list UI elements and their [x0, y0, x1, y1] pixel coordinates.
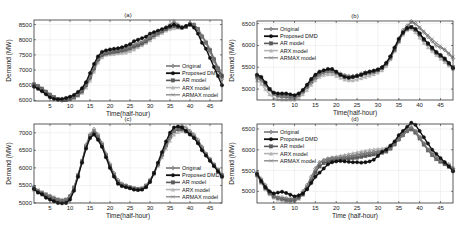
panel-title: (c) — [125, 116, 132, 122]
y-tick-label: 5500 — [242, 64, 256, 70]
x-tick-label: 45 — [207, 103, 214, 109]
x-axis-label: Time (half-hour) — [332, 212, 378, 220]
legend-entry: AR model — [280, 40, 304, 46]
x-tick-label: 10 — [67, 205, 74, 211]
y-tick-label: 5500 — [242, 168, 256, 174]
x-tick-label: 30 — [375, 205, 382, 211]
y-tick-label: 6500 — [242, 126, 256, 132]
x-tick-label: 35 — [395, 205, 402, 211]
x-tick-label: 40 — [416, 205, 423, 211]
x-tick-label: 40 — [416, 102, 423, 108]
legend-entry: Original — [182, 165, 201, 171]
x-tick-label: 10 — [67, 103, 74, 109]
x-tick-label: 25 — [127, 103, 134, 109]
legend-entry: ARMAX model — [182, 194, 218, 200]
x-tick-label: 30 — [375, 102, 382, 108]
x-tick-label: 25 — [127, 205, 134, 211]
legend-entry: ARMAX model — [182, 92, 218, 98]
x-tick-label: 5 — [48, 205, 52, 211]
legend-entry: AR model — [182, 179, 206, 185]
panel-title: (d) — [351, 116, 358, 122]
legend-entry: ARX model — [280, 48, 308, 54]
y-tick-label: 6500 — [242, 21, 256, 27]
y-tick-label: 8500 — [19, 22, 33, 28]
legend: OriginalProposed DMDAR modelARX modelARM… — [262, 24, 318, 62]
legend-entry: ARX model — [182, 187, 210, 193]
legend: OriginalProposed DMDAR modelARX modelARM… — [164, 163, 220, 201]
x-tick-label: 15 — [312, 205, 319, 211]
legend: OriginalProposed DMDAR modelARX modelARM… — [164, 61, 220, 99]
legend-entry: Original — [280, 26, 299, 32]
chart-panel-b: 510152025303540455000550060006500(b)Time… — [228, 13, 455, 117]
x-tick-label: 45 — [437, 102, 444, 108]
legend-entry: ARX model — [280, 151, 308, 157]
y-tick-label: 6000 — [19, 97, 33, 103]
x-tick-label: 15 — [87, 205, 94, 211]
x-tick-label: 40 — [187, 103, 194, 109]
x-tick-label: 30 — [147, 103, 154, 109]
legend-entry: AR model — [280, 143, 304, 149]
x-tick-label: 35 — [395, 102, 402, 108]
y-tick-label: 5000 — [242, 86, 256, 92]
x-tick-label: 20 — [333, 205, 340, 211]
x-tick-label: 35 — [167, 205, 174, 211]
x-tick-label: 30 — [147, 205, 154, 211]
figure-canvas: 5101520253035404560006500700075008000850… — [0, 0, 461, 234]
legend: OriginalProposed DMDAR modelARX modelARM… — [262, 127, 318, 165]
x-tick-label: 45 — [437, 205, 444, 211]
legend-entry: Original — [280, 129, 299, 135]
y-tick-label: 6000 — [242, 42, 256, 48]
y-axis-label: Demand (MW) — [5, 142, 13, 184]
chart-panel-a: 5101520253035404560006500700075008000850… — [5, 12, 224, 118]
y-tick-label: 7500 — [19, 52, 33, 58]
y-axis-label: Demand (MW) — [228, 142, 236, 184]
x-tick-label: 10 — [291, 102, 298, 108]
legend-entry: ARMAX model — [280, 158, 316, 164]
legend-entry: Proposed DMD — [280, 33, 318, 39]
x-tick-label: 20 — [333, 102, 340, 108]
panel-title: (b) — [351, 13, 358, 19]
x-tick-label: 5 — [48, 103, 52, 109]
x-tick-label: 20 — [107, 103, 114, 109]
legend-entry: Proposed DMD — [182, 172, 220, 178]
x-tick-label: 25 — [354, 205, 361, 211]
y-tick-label: 6500 — [19, 82, 33, 88]
y-tick-label: 5000 — [242, 188, 256, 194]
x-tick-label: 15 — [312, 102, 319, 108]
y-tick-label: 6000 — [19, 165, 33, 171]
panel-title: (a) — [124, 12, 131, 18]
x-tick-label: 25 — [354, 102, 361, 108]
x-tick-label: 10 — [291, 205, 298, 211]
y-axis-label: Demand (MW) — [228, 39, 236, 81]
legend-entry: Proposed DMD — [280, 136, 318, 142]
x-tick-label: 15 — [87, 103, 94, 109]
legend-entry: AR model — [182, 77, 206, 83]
y-tick-label: 6000 — [242, 147, 256, 153]
figure: 5101520253035404560006500700075008000850… — [0, 0, 461, 234]
y-tick-label: 5000 — [19, 200, 33, 206]
y-tick-label: 7000 — [19, 67, 33, 73]
x-tick-label: 5 — [272, 205, 276, 211]
legend-entry: Original — [182, 63, 201, 69]
x-tick-label: 35 — [167, 103, 174, 109]
chart-panel-d: 510152025303540455000550060006500(d)Time… — [228, 116, 455, 220]
legend-entry: ARMAX model — [280, 55, 316, 61]
y-tick-label: 7000 — [19, 130, 33, 136]
y-tick-label: 6500 — [19, 147, 33, 153]
x-tick-label: 40 — [187, 205, 194, 211]
x-axis-label: Time(half-hour) — [106, 212, 150, 220]
x-tick-label: 45 — [207, 205, 214, 211]
legend-entry: ARX model — [182, 85, 210, 91]
legend-entry: Proposed DMD — [182, 70, 220, 76]
y-axis-label: Demand (MW) — [5, 39, 13, 81]
y-tick-label: 5500 — [19, 182, 33, 188]
x-tick-label: 20 — [107, 205, 114, 211]
chart-panel-c: 5101520253035404550005500600065007000(c)… — [5, 116, 224, 220]
x-tick-label: 5 — [272, 102, 276, 108]
y-tick-label: 8000 — [19, 37, 33, 43]
